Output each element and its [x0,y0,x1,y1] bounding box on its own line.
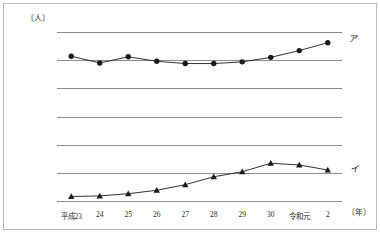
data-point-ア-8 [297,48,302,53]
series-line-ア [71,43,328,64]
x-tick-label-0: 平成23 [61,210,82,221]
data-point-ア-9 [325,40,330,45]
x-axis-unit-label: 〔年〕 [347,206,371,217]
series-lines-and-markers [57,32,342,201]
x-tick-label-4: 27 [182,210,189,219]
data-point-ア-3 [154,59,159,64]
data-point-ア-0 [69,54,74,59]
series-line-イ [71,163,328,196]
x-tick-label-2: 25 [125,210,132,219]
y-axis-unit-label: 〔人〕 [26,12,50,23]
data-point-イ-7 [268,160,274,166]
series-label-b: イ [350,162,359,175]
series-label-a: ア [348,32,357,45]
x-tick-label-8: 令和元 [289,210,310,221]
data-point-ア-5 [211,61,216,66]
x-tick-label-3: 26 [153,210,160,219]
x-tick-label-5: 28 [210,210,217,219]
plot-area: 050001000015000200002500030000 平成2324252… [57,32,342,201]
x-tick-label-1: 24 [96,210,103,219]
data-point-ア-7 [268,55,273,60]
data-point-ア-4 [183,61,188,66]
chart-figure: 〔人〕 〔年〕 050001000015000200002500030000 平… [0,0,380,233]
data-point-ア-6 [240,59,245,64]
data-point-ア-1 [97,60,102,65]
data-point-ア-2 [126,54,131,59]
x-tick-label-9: 2 [326,210,330,219]
x-tick-label-7: 30 [267,210,274,219]
gridline-0 [57,201,342,202]
x-tick-label-6: 29 [239,210,246,219]
